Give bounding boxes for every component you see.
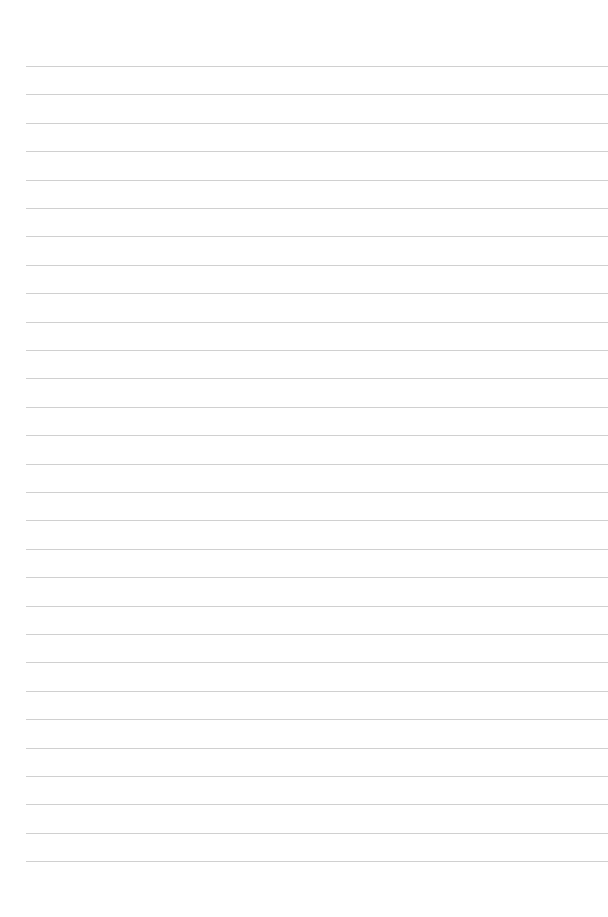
ruled-line (26, 94, 608, 95)
ruled-line (26, 634, 608, 635)
ruled-line (26, 833, 608, 834)
ruled-line (26, 123, 608, 124)
ruled-line (26, 378, 608, 379)
ruled-line (26, 293, 608, 294)
ruled-line (26, 577, 608, 578)
ruled-line (26, 606, 608, 607)
ruled-line (26, 265, 608, 266)
ruled-line (26, 776, 608, 777)
ruled-line (26, 861, 608, 862)
ruled-line (26, 180, 608, 181)
ruled-line (26, 322, 608, 323)
ruled-line (26, 151, 608, 152)
ruled-line (26, 492, 608, 493)
ruled-line (26, 208, 608, 209)
lined-paper-sheet (0, 0, 608, 917)
ruled-line (26, 520, 608, 521)
ruled-line (26, 691, 608, 692)
ruled-line (26, 662, 608, 663)
ruled-line (26, 236, 608, 237)
ruled-line (26, 748, 608, 749)
ruled-line (26, 407, 608, 408)
ruled-line (26, 549, 608, 550)
ruled-line (26, 435, 608, 436)
ruled-line (26, 804, 608, 805)
ruled-line (26, 350, 608, 351)
ruled-line (26, 464, 608, 465)
ruled-line (26, 66, 608, 67)
ruled-line (26, 719, 608, 720)
